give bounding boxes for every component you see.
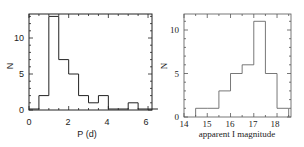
x-axis-title: P (d) <box>77 129 96 139</box>
figure: 0 5 10 0 2 4 6 P (d) N 0 5 10 14 15 16 1… <box>0 0 304 147</box>
y-tick-5: 5 <box>175 69 180 79</box>
x-axis-title: apparent I magnitude <box>199 129 275 139</box>
x-tick-16: 16 <box>226 119 236 129</box>
histogram-steps <box>196 21 289 116</box>
histogram-steps <box>29 16 158 109</box>
magnitude-histogram: 0 5 10 14 15 16 17 18 apparent I magnitu… <box>159 14 291 139</box>
x-tick-2: 2 <box>65 117 70 127</box>
y-tick-10: 10 <box>170 25 180 35</box>
x-tick-6: 6 <box>143 117 148 127</box>
x-tick-0: 0 <box>26 117 31 127</box>
x-tick-17: 17 <box>249 119 259 129</box>
y-tick-10: 10 <box>14 33 24 43</box>
period-histogram: 0 5 10 0 2 4 6 P (d) N <box>5 14 158 139</box>
y-tick-labels: 0 5 10 <box>14 33 24 115</box>
x-tick-labels: 0 2 4 6 <box>26 117 148 127</box>
y-tick-labels: 0 5 10 <box>170 25 180 122</box>
x-tick-15: 15 <box>203 119 213 129</box>
y-tick-0: 0 <box>19 105 24 115</box>
y-axis-title: N <box>159 62 169 69</box>
x-tick-18: 18 <box>271 119 281 129</box>
y-tick-5: 5 <box>19 69 24 79</box>
axis-ticks <box>184 14 291 117</box>
y-axis-title: N <box>5 63 15 70</box>
x-tick-4: 4 <box>104 117 109 127</box>
x-tick-14: 14 <box>180 119 190 129</box>
plot-frame <box>184 14 291 117</box>
x-tick-labels: 14 15 16 17 18 <box>180 119 281 129</box>
